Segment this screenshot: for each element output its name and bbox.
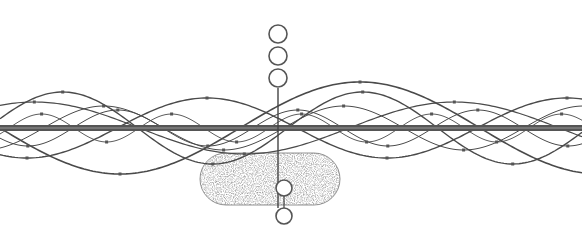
- wave-marker-dot: [386, 145, 389, 148]
- wave-marker-dot: [342, 105, 345, 108]
- wave-marker-dot: [119, 173, 122, 176]
- wave-marker-dot: [26, 157, 29, 160]
- wave-marker-dot: [386, 157, 389, 160]
- wave-marker-dot: [105, 141, 108, 144]
- horizontal-bar: [0, 125, 582, 131]
- cell-wave-diagram: [0, 0, 582, 245]
- circle-node-4: [276, 180, 292, 196]
- wave-marker-dot: [361, 91, 364, 94]
- wave-marker-dot: [40, 113, 43, 116]
- circle-node-5: [276, 208, 292, 224]
- wave-marker-dot: [26, 145, 29, 148]
- circle-node-2: [269, 47, 287, 65]
- wave-marker-dot: [462, 149, 465, 152]
- wave-marker-dot: [211, 163, 214, 166]
- wave-marker-dot: [296, 109, 299, 112]
- wave-marker-dot: [222, 149, 225, 152]
- wave-marker-dot: [206, 145, 209, 148]
- wave-marker-dot: [235, 141, 238, 144]
- wave-marker-dot: [300, 113, 303, 116]
- wave-marker-dot: [453, 101, 456, 104]
- wave-marker-dot: [511, 163, 514, 166]
- wave-marker-dot: [33, 101, 36, 104]
- wave-marker-dot: [116, 109, 119, 112]
- wave-marker-dot: [476, 109, 479, 112]
- wave-marker-dot: [206, 97, 209, 100]
- cell-body: [200, 153, 340, 205]
- wave-marker-dot: [365, 141, 368, 144]
- wave-marker-dot: [170, 113, 173, 116]
- wave-marker-dot: [430, 113, 433, 116]
- circle-node-1: [269, 25, 287, 43]
- wave-marker-dot: [495, 141, 498, 144]
- diagram-canvas: [0, 0, 582, 245]
- cell-stipple: [200, 153, 340, 205]
- circle-node-3: [269, 69, 287, 87]
- wave-marker-dot: [61, 91, 64, 94]
- wave-marker-dot: [566, 97, 569, 100]
- wave-marker-dot: [566, 145, 569, 148]
- wave-marker-dot: [243, 153, 246, 156]
- wave-marker-dot: [560, 113, 563, 116]
- wave-marker-dot: [359, 81, 362, 84]
